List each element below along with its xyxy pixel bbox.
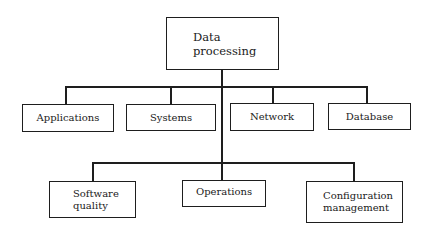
- node-systems: Systems: [126, 104, 216, 131]
- node-label: Operations: [196, 186, 252, 198]
- node-label: Configuration management: [323, 190, 393, 214]
- node-label: Software quality: [73, 188, 119, 212]
- node-database: Database: [328, 103, 411, 130]
- node-label: Applications: [37, 112, 100, 124]
- drop-configuration-management: [353, 162, 355, 181]
- node-network: Network: [230, 103, 314, 131]
- node-software-quality: Software quality: [49, 181, 136, 218]
- node-applications: Applications: [22, 104, 114, 132]
- upper-bus-connector: [65, 86, 367, 88]
- drop-software-quality: [92, 162, 94, 181]
- lower-bus-connector: [92, 162, 354, 164]
- node-label: Data processing: [193, 30, 256, 58]
- node-label: Network: [250, 111, 294, 123]
- node-configuration-management: Configuration management: [306, 181, 403, 223]
- drop-network: [272, 86, 274, 104]
- drop-applications: [65, 86, 67, 104]
- drop-database: [366, 86, 368, 104]
- node-label: Database: [346, 111, 393, 123]
- node-operations: Operations: [182, 180, 266, 207]
- node-data-processing: Data processing: [166, 17, 279, 70]
- drop-systems: [170, 86, 172, 104]
- node-label: Systems: [150, 112, 192, 124]
